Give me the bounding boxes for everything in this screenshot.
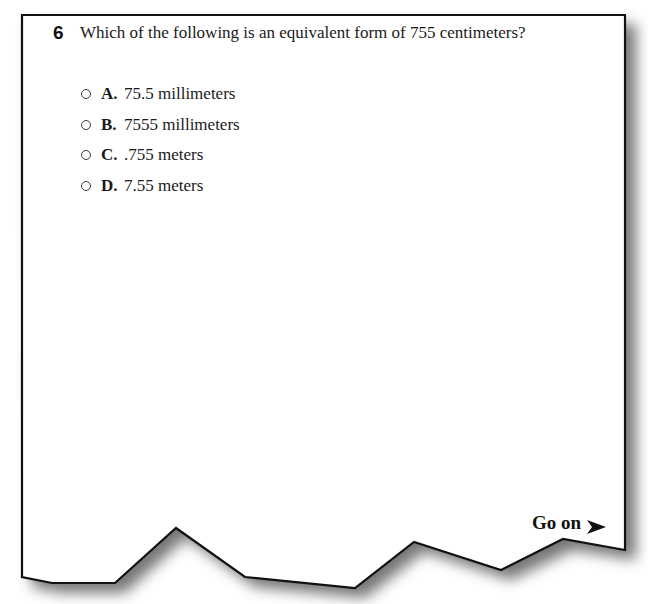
go-on-label: Go on [532,511,581,535]
option-d[interactable]: D. 7.55 meters [81,175,240,197]
answer-options: A. 75.5 millimeters B. 7555 millimeters … [81,83,240,206]
arrow-right-icon [587,516,606,530]
option-text: .755 meters [124,145,203,165]
option-a[interactable]: A. 75.5 millimeters [81,83,240,105]
question-text: Which of the following is an equivalent … [80,22,526,44]
go-on-indicator: Go on [532,511,606,535]
option-text: 75.5 millimeters [124,84,235,104]
option-letter: A. [101,84,124,104]
question-number: 6 [53,22,64,44]
option-text: 7.55 meters [124,176,203,196]
radio-circle-icon[interactable] [81,181,91,191]
option-text: 7555 millimeters [124,115,240,135]
option-c[interactable]: C. .755 meters [81,144,240,166]
radio-circle-icon[interactable] [81,120,91,130]
radio-circle-icon[interactable] [81,150,91,160]
option-letter: B. [101,115,124,135]
option-letter: C. [101,145,124,165]
radio-circle-icon[interactable] [81,89,91,99]
option-b[interactable]: B. 7555 millimeters [81,114,240,136]
option-letter: D. [101,176,124,196]
